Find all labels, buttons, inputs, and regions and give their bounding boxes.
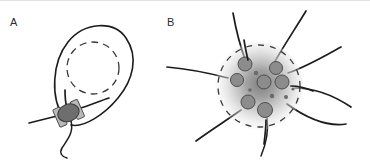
granule [238,57,252,71]
panel-b-label: B [167,16,174,28]
two-panel-cell-diagram: A B [0,0,370,164]
granule [270,62,283,75]
micro-dot [270,94,274,98]
figure-container: A B [0,0,370,164]
granule [275,75,289,89]
micro-dot [291,87,294,90]
panel-b: B [167,11,351,156]
junction-whisker-right [78,98,109,109]
granule [241,95,255,109]
micro-dot [284,95,288,99]
granule [257,75,271,89]
panel-a: A [10,16,133,158]
nucleus-dashed-ring [67,42,119,94]
micro-dot [248,88,252,92]
granule [258,103,273,118]
process-right-middle [295,88,351,107]
panel-a-label: A [10,16,18,28]
granule [231,74,244,87]
micro-dot [254,71,258,75]
